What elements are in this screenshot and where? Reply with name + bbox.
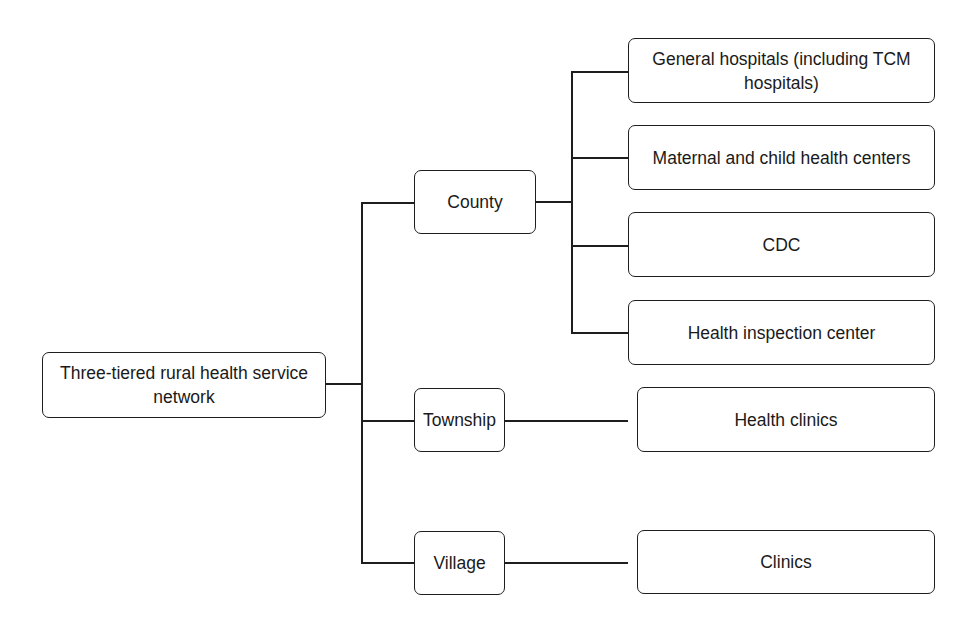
node-general-hospitals-label: General hospitals (including TCM hospita…	[637, 47, 926, 95]
node-root: Three-tiered rural health service networ…	[42, 352, 326, 418]
connector-county-subtrunk-vertical	[571, 71, 573, 333]
node-cdc: CDC	[628, 212, 935, 277]
connector-township-health-clinics	[505, 420, 628, 422]
node-general-hospitals: General hospitals (including TCM hospita…	[628, 38, 935, 103]
node-cdc-label: CDC	[763, 233, 801, 257]
node-health-inspection: Health inspection center	[628, 300, 935, 365]
node-maternal-child-health-label: Maternal and child health centers	[653, 146, 911, 170]
node-maternal-child-health: Maternal and child health centers	[628, 125, 935, 190]
node-clinics-label: Clinics	[760, 550, 812, 574]
connector-county-subtrunk	[536, 201, 572, 203]
connector-main-trunk	[361, 202, 363, 563]
node-health-inspection-label: Health inspection center	[688, 321, 876, 345]
node-village: Village	[414, 531, 505, 595]
connector-trunk-county	[361, 202, 414, 204]
node-county: County	[414, 170, 536, 234]
connector-to-general-hospitals	[571, 71, 628, 73]
node-health-clinics: Health clinics	[637, 387, 935, 452]
connector-to-cdc	[571, 245, 628, 247]
node-health-clinics-label: Health clinics	[734, 408, 837, 432]
connector-village-clinics	[505, 562, 628, 564]
node-clinics: Clinics	[637, 530, 935, 594]
connector-to-health-inspection	[571, 332, 628, 334]
connector-root-trunk	[326, 383, 362, 385]
node-township: Township	[414, 388, 505, 452]
connector-trunk-township	[361, 420, 414, 422]
connector-to-maternal-child	[571, 157, 628, 159]
node-county-label: County	[447, 190, 502, 214]
connector-trunk-village	[361, 562, 414, 564]
node-root-label: Three-tiered rural health service networ…	[51, 361, 317, 409]
node-township-label: Township	[423, 408, 496, 432]
node-village-label: Village	[433, 551, 485, 575]
